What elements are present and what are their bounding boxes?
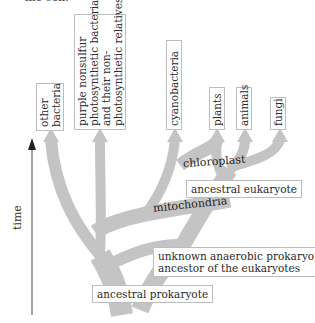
time-axis-arrowhead-icon xyxy=(28,138,36,150)
arrowhead-plants xyxy=(209,128,225,142)
arrowhead-fungi xyxy=(272,128,288,142)
branch-purple-bacteria xyxy=(100,140,101,255)
time-axis-label: time xyxy=(11,205,24,230)
leaf-label-plants: plants xyxy=(209,87,225,130)
tree-of-life-diagram: the cell. xyxy=(0,0,315,323)
leaf-label-animals: animals xyxy=(236,87,252,130)
arrowhead-cyanobacteria xyxy=(167,128,183,142)
node-label-ancestral-prokaryote: ancestral prokaryote xyxy=(92,285,213,303)
branch-other-bacteria xyxy=(51,140,100,255)
leaf-label-purple-bacteria: purple nonsulfur photosynthetic bacteria… xyxy=(74,14,126,130)
node-label-ancestral-eukaryote: ancestral eukaryote xyxy=(186,180,302,198)
leaf-label-other-bacteria: other bacteria xyxy=(36,83,64,131)
node-label-unknown-ancestor: unknown anaerobic prokaryote ancestor of… xyxy=(153,247,315,277)
arrowhead-animals xyxy=(237,128,253,142)
leaf-label-fungi: fungi xyxy=(270,97,286,130)
arrowhead-purple-bacteria xyxy=(92,128,108,142)
leaf-label-cyanobacteria: cyanobacteria xyxy=(166,40,182,130)
